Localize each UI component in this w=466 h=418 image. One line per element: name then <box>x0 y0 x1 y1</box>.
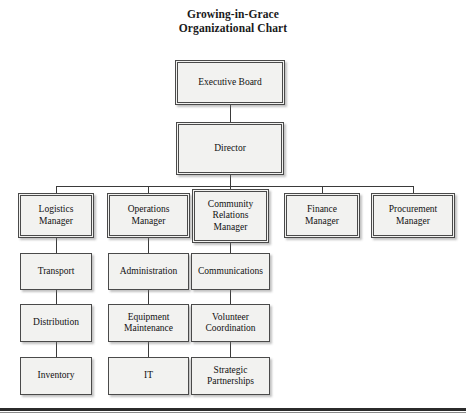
connector-communications-to-volunteer <box>230 290 231 304</box>
node-administration-label: Administration <box>118 266 180 278</box>
node-logistics-manager-label: Logistics Manager <box>37 204 76 227</box>
connector-bus-to-logistics <box>56 186 57 193</box>
node-transport[interactable]: Transport <box>20 253 92 290</box>
node-communications[interactable]: Communications <box>191 253 270 290</box>
connector-exec-to-director <box>230 105 231 122</box>
connector-community-to-communications <box>230 243 231 253</box>
node-distribution[interactable]: Distribution <box>20 304 92 342</box>
node-finance-manager[interactable]: Finance Manager <box>284 193 360 238</box>
page-title: Growing-in-Grace Organizational Chart <box>0 8 466 35</box>
node-director-label: Director <box>212 143 248 155</box>
connector-operations-to-administration <box>148 238 149 253</box>
node-community-relations-manager[interactable]: Community Relations Manager <box>192 189 269 243</box>
node-operations-manager-label: Operations Manager <box>126 204 172 227</box>
node-transport-label: Transport <box>36 266 77 278</box>
connector-equipment-to-it <box>148 342 149 357</box>
connector-transport-to-distribution <box>56 290 57 304</box>
node-procurement-manager-label: Procurement Manager <box>387 204 440 227</box>
node-director[interactable]: Director <box>176 122 284 175</box>
connector-distribution-to-inventory <box>56 342 57 357</box>
node-finance-manager-label: Finance Manager <box>303 204 341 227</box>
node-it[interactable]: IT <box>108 357 189 395</box>
page-title-line-2: Organizational Chart <box>0 22 466 36</box>
connector-bus-to-finance <box>322 186 323 193</box>
node-community-relations-manager-label: Community Relations Manager <box>206 199 255 234</box>
node-distribution-label: Distribution <box>31 317 81 329</box>
connector-logistics-to-transport <box>56 238 57 253</box>
node-operations-manager[interactable]: Operations Manager <box>107 193 190 238</box>
page-bottom-rule <box>0 408 466 411</box>
node-communications-label: Communications <box>196 266 265 278</box>
node-logistics-manager[interactable]: Logistics Manager <box>18 193 94 238</box>
connector-volunteer-to-strategic <box>230 342 231 357</box>
node-inventory[interactable]: Inventory <box>20 357 92 395</box>
node-strategic-partnerships-label: Strategic Partnerships <box>205 365 256 388</box>
connector-administration-to-equipment <box>148 290 149 304</box>
connector-bus-to-operations <box>148 186 149 193</box>
node-inventory-label: Inventory <box>36 370 77 382</box>
node-procurement-manager[interactable]: Procurement Manager <box>371 193 455 238</box>
node-administration[interactable]: Administration <box>108 253 189 290</box>
node-it-label: IT <box>142 370 155 382</box>
node-equipment-maintenance-label: Equipment Maintenance <box>122 312 175 335</box>
page-bottom-rule-thin <box>0 412 466 413</box>
node-executive-board-label: Executive Board <box>196 77 264 89</box>
node-executive-board[interactable]: Executive Board <box>175 60 285 105</box>
connector-manager-bus <box>56 186 413 187</box>
org-chart-page: Growing-in-Grace Organizational Chart Ex… <box>0 0 466 418</box>
connector-bus-to-procurement <box>413 186 414 193</box>
node-strategic-partnerships[interactable]: Strategic Partnerships <box>191 357 270 395</box>
connector-director-down <box>230 175 231 186</box>
node-volunteer-coordination[interactable]: Volunteer Coordination <box>191 304 270 342</box>
node-equipment-maintenance[interactable]: Equipment Maintenance <box>108 304 189 342</box>
node-volunteer-coordination-label: Volunteer Coordination <box>203 312 257 335</box>
page-title-line-1: Growing-in-Grace <box>0 8 466 22</box>
